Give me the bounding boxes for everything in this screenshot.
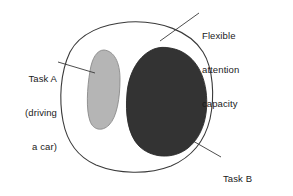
- diagram-canvas: Flexible attention capacity Task A (driv…: [0, 0, 293, 196]
- label-task-b: Task B (talking with a passenger): [223, 150, 280, 196]
- task-a-label-line-2: (driving: [0, 107, 57, 118]
- capacity-label-line-1: Flexible: [202, 30, 239, 41]
- task-b-label-line-1: Task B: [223, 173, 280, 184]
- task-b-shape: [126, 47, 206, 156]
- task-a-label-line-3: a car): [0, 141, 57, 152]
- task-a-label-line-1: Task A: [0, 73, 57, 84]
- leader-line-task-b: [193, 141, 221, 157]
- label-task-a: Task A (driving a car): [0, 50, 57, 175]
- label-flexible-attention-capacity: Flexible attention capacity: [202, 7, 239, 132]
- capacity-label-line-3: capacity: [202, 98, 239, 109]
- capacity-label-line-2: attention: [202, 64, 239, 75]
